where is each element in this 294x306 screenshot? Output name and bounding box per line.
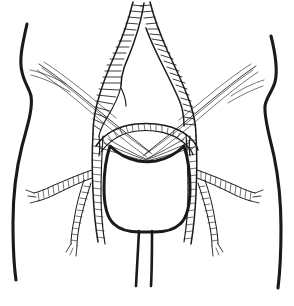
anatomy-illustration xyxy=(0,0,294,306)
anatomy-figure: Pelvic vasculature and bladder line draw… xyxy=(0,0,294,306)
